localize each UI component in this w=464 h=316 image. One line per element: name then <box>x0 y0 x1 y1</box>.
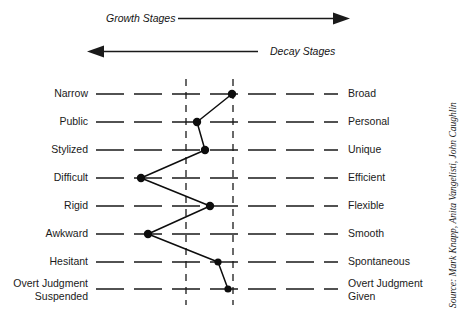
right-label-personal: Personal <box>348 115 389 127</box>
right-label-unique: Unique <box>348 143 381 155</box>
chart-canvas: Growth Stages Decay Stages <box>0 0 464 316</box>
profile-chart: Growth Stages Decay Stages <box>0 0 464 316</box>
decay-stages-header: Decay Stages <box>87 45 336 58</box>
left-label-stylized: Stylized <box>51 143 88 155</box>
right-label-spontaneous: Spontaneous <box>348 255 410 267</box>
right-label-efficient: Efficient <box>348 171 385 183</box>
data-point[interactable] <box>201 146 209 154</box>
right-label-smooth: Smooth <box>348 227 384 239</box>
left-axis-labels: Narrow Public Stylized Difficult Rigid A… <box>13 87 88 302</box>
data-point[interactable] <box>193 118 201 126</box>
data-point[interactable] <box>224 285 231 292</box>
left-label-difficult: Difficult <box>54 171 88 183</box>
source-credit: Source: Mark Knapp, Anita Vangelisti, Jo… <box>448 102 458 308</box>
left-label-rigid: Rigid <box>64 199 88 211</box>
left-label-awkward: Awkward <box>46 227 89 239</box>
growth-stages-header: Growth Stages <box>106 12 350 25</box>
growth-arrow-head-icon <box>333 13 350 25</box>
data-point[interactable] <box>206 202 214 210</box>
left-label-overt-judgment-line2: Suspended <box>35 290 88 302</box>
growth-stages-label: Growth Stages <box>106 12 176 24</box>
left-label-narrow: Narrow <box>54 87 88 99</box>
data-point[interactable] <box>214 258 221 265</box>
right-label-broad: Broad <box>348 87 376 99</box>
left-label-public: Public <box>59 115 88 127</box>
right-axis-labels: Broad Personal Unique Efficient Flexible… <box>348 87 423 302</box>
decay-stages-label: Decay Stages <box>270 45 336 57</box>
data-point[interactable] <box>137 174 145 182</box>
left-label-overt-judgment-line1: Overt Judgment <box>13 277 88 289</box>
right-label-overt-judgment-line1: Overt Judgment <box>348 277 423 289</box>
data-point[interactable] <box>144 230 152 238</box>
left-label-hesitant: Hesitant <box>49 255 88 267</box>
decay-arrow-head-icon <box>87 46 104 58</box>
right-label-overt-judgment-line2: Given <box>348 290 376 302</box>
data-point[interactable] <box>228 90 236 98</box>
right-label-flexible: Flexible <box>348 199 384 211</box>
